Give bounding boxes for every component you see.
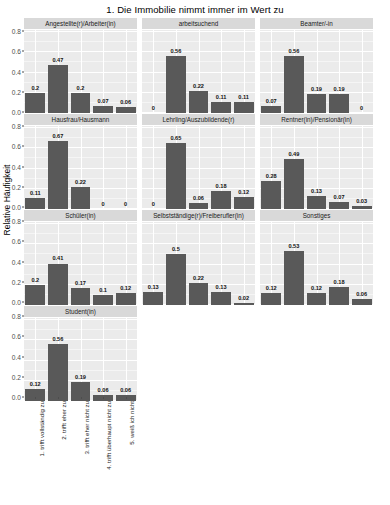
bar-series: 0.280.490.130.070.03 <box>260 126 373 209</box>
bar-value-label: 0.12 <box>311 286 322 292</box>
bar-group: 0.12 <box>307 222 327 305</box>
bar-group: 0.19 <box>307 30 327 113</box>
bar-group: 0.13 <box>211 222 231 305</box>
bar-value-label: 0.2 <box>77 86 85 92</box>
bar-group: 0.12 <box>116 222 136 305</box>
bar-value-label: 0.41 <box>52 256 63 262</box>
bar-group: 0.47 <box>48 30 68 113</box>
x-axis-tick-label: 2. trifft eher zu <box>60 401 67 440</box>
bar-value-label: 0.12 <box>30 382 41 388</box>
bar-value-label: 0.2 <box>31 278 39 284</box>
bar-value-label: 0.49 <box>288 152 299 158</box>
y-axis-tick-label: 0.8 <box>12 123 21 130</box>
bar-group: 0 <box>143 126 163 209</box>
bar <box>25 198 45 209</box>
bar-value-label: 0.56 <box>170 49 181 55</box>
bar <box>116 293 136 305</box>
bar-group: 0.65 <box>166 126 186 209</box>
plot-area: 0.070.560.190.190 <box>260 30 373 113</box>
bar-value-label: 0.19 <box>334 87 345 93</box>
bar-value-label: 0.18 <box>334 280 345 286</box>
bar-group: 0.13 <box>143 222 163 305</box>
plot-area: 0.110.670.2200 <box>24 126 137 209</box>
bar-series: 0.130.50.220.130.02 <box>142 222 255 305</box>
bar <box>234 303 254 305</box>
bar-group: 0.28 <box>261 126 281 209</box>
bar-value-label: 0 <box>124 202 127 208</box>
x-axis-tick-mark <box>81 397 82 399</box>
bar <box>261 106 281 113</box>
facet-panel: Beamter/-in0.070.560.190.190 <box>260 18 373 113</box>
bar <box>116 107 136 113</box>
bar <box>211 102 231 113</box>
x-axis: 1. trifft vollständig zu2. trifft eher z… <box>24 397 137 493</box>
bar-group: 0.13 <box>307 126 327 209</box>
bar-value-label: 0.67 <box>52 134 63 140</box>
bar-group: 0.06 <box>116 30 136 113</box>
y-axis-title: Relative Häufigkeit <box>2 140 12 260</box>
bar-value-label: 0.13 <box>216 285 227 291</box>
bar <box>329 287 349 305</box>
y-axis-tick-label: 0.6 <box>12 238 21 245</box>
x-axis-tick-mark <box>126 397 127 399</box>
y-axis-tick-label: 0.6 <box>12 333 21 340</box>
bar-value-label: 0.02 <box>238 296 249 302</box>
bar <box>284 159 304 209</box>
facet-panel: Sonstiges0.120.530.120.180.06 <box>260 210 373 305</box>
facet-panel: Hausfrau/Hausmann0.110.670.2200 <box>24 114 137 209</box>
bar-value-label: 0.07 <box>266 99 277 105</box>
facet-panel: Rentner(in)/Pensionär(in)0.280.490.130.0… <box>260 114 373 209</box>
facet-panel: arbeitsuchend00.560.220.110.11 <box>142 18 255 113</box>
y-axis-tick-label: 0.4 <box>12 68 21 75</box>
bar-value-label: 0.06 <box>193 196 204 202</box>
bar-value-label: 0.06 <box>98 388 109 394</box>
plot-area: 0.20.470.20.070.06 <box>24 30 137 113</box>
bar <box>329 94 349 113</box>
bar-value-label: 0.22 <box>75 180 86 186</box>
bar <box>261 181 281 209</box>
bar <box>307 293 327 305</box>
bar-group: 0 <box>352 30 372 113</box>
bar <box>166 143 186 209</box>
bar-value-label: 0.47 <box>52 58 63 64</box>
y-axis-tick-label: 0.4 <box>12 163 21 170</box>
x-axis-tick-label: 3. trifft eher nicht zu <box>83 401 90 454</box>
bar-value-label: 0.22 <box>193 84 204 90</box>
plot-area: 0.130.50.220.130.02 <box>142 222 255 305</box>
facet-strip-label: Rentner(in)/Pensionär(in) <box>260 114 373 126</box>
x-axis-tick-label: 1. trifft vollständig zu <box>38 401 45 456</box>
facet-grid: Angestellte(r)/Arbeiter(in)0.20.470.20.0… <box>24 18 388 402</box>
bar-value-label: 0.56 <box>288 49 299 55</box>
bar-value-label: 0.11 <box>30 191 41 197</box>
bar-value-label: 0.13 <box>148 285 159 291</box>
bar-group: 0.2 <box>71 30 91 113</box>
bar <box>71 288 91 305</box>
bar-value-label: 0.18 <box>216 184 227 190</box>
facet-strip-label: Selbstständige(r)/Freiberufler(in) <box>142 210 255 222</box>
bar-group: 0.22 <box>189 222 209 305</box>
bar-group: 0.12 <box>25 318 45 401</box>
bar-group: 0.18 <box>329 222 349 305</box>
bar <box>48 264 68 306</box>
plot-area: 0.120.530.120.180.06 <box>260 222 373 305</box>
bar-value-label: 0.11 <box>216 95 227 101</box>
facet-strip-label: Student(in) <box>24 306 137 318</box>
bar-group: 0.56 <box>48 318 68 401</box>
plot-area: 00.560.220.110.11 <box>142 30 255 113</box>
bar-group: 0.06 <box>189 126 209 209</box>
bar-value-label: 0.06 <box>120 388 131 394</box>
bar-value-label: 0.07 <box>98 99 109 105</box>
bar <box>307 94 327 113</box>
bar <box>71 93 91 113</box>
facet-strip-label: arbeitsuchend <box>142 18 255 30</box>
bar-group: 0.11 <box>25 126 45 209</box>
bar-group: 0.07 <box>93 30 113 113</box>
x-axis-tick-mark <box>103 397 104 399</box>
bar-series: 0.20.470.20.070.06 <box>24 30 137 113</box>
y-axis-tick-label: 0.6 <box>12 143 21 150</box>
y-axis-tick-label: 0.8 <box>12 218 21 225</box>
y-axis-tick-label: 0.0 <box>12 204 21 211</box>
y-axis-tick-label: 0.0 <box>12 299 21 306</box>
bar-series: 0.20.410.170.10.12 <box>24 222 137 305</box>
bar-series: 0.120.530.120.180.06 <box>260 222 373 305</box>
